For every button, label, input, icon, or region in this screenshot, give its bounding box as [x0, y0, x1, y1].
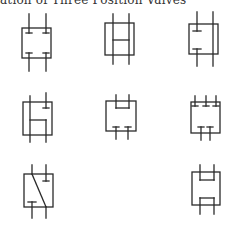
valve-symbol-2	[105, 14, 134, 64]
valve-symbol-3	[189, 12, 218, 66]
valve-symbol-7	[24, 165, 53, 218]
valve-symbols-diagram	[0, 0, 236, 225]
valve-symbol-1	[22, 14, 51, 71]
valve-symbol-5	[106, 95, 136, 139]
valve-symbol-4	[23, 93, 52, 142]
valve-symbol-8	[192, 165, 220, 214]
valve-symbol-6	[191, 96, 220, 140]
